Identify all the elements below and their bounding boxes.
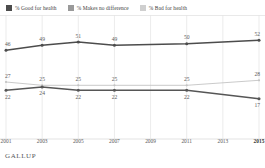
data-label: 28 [254,71,260,77]
data-label: 25 [112,76,118,82]
data-point [5,81,7,83]
legend-label-nodifference: % Makes no difference [77,5,129,11]
chart-svg: 464951495052272525252528222422222217 [0,15,265,140]
data-point [185,42,188,45]
data-label: 46 [5,41,11,47]
chart-legend: % Good for health % Makes no difference … [0,0,265,15]
data-label: 27 [5,73,11,79]
data-label: 22 [75,94,81,100]
legend-swatch-good [6,5,12,11]
data-point [5,49,8,52]
data-point [113,44,116,47]
legend-swatch-nodifference [68,5,74,11]
plot-area: 464951495052272525252528222422222217 [0,15,265,140]
gallup-brand: GALLUP [5,152,36,160]
x-tick-2015: 2015 [254,138,265,144]
data-label: 17 [254,102,260,108]
data-point [77,41,80,44]
data-label: 52 [254,31,260,37]
data-point [258,97,261,100]
legend-label-good: % Good for health [15,5,57,11]
data-point [41,86,44,89]
legend-swatch-bad [140,5,146,11]
legend-label-bad: % Bad for health [149,5,187,11]
data-point [113,89,116,92]
data-point [41,44,44,47]
data-point [113,84,115,86]
data-point [186,84,188,86]
series-2: 222422222217 [5,86,261,109]
legend-item-good: % Good for health [6,5,57,11]
legend-item-bad: % Bad for health [140,5,187,11]
series-0: 464951495052 [5,31,261,52]
x-tick-2003: 2003 [37,138,48,144]
chart-container: % Good for health % Makes no difference … [0,0,265,168]
data-label: 24 [39,90,45,96]
data-label: 22 [5,94,11,100]
data-point [258,39,261,42]
data-label: 51 [75,33,81,39]
x-tick-2009: 2009 [145,138,156,144]
data-label: 25 [39,76,45,82]
data-label: 22 [112,94,118,100]
x-tick-2013: 2013 [217,138,228,144]
data-point [258,79,260,81]
data-label: 25 [184,76,190,82]
data-label: 50 [184,34,190,40]
x-tick-2005: 2005 [73,138,84,144]
data-point [5,89,8,92]
data-label: 49 [112,36,118,42]
data-point [77,89,80,92]
legend-item-nodifference: % Makes no difference [68,5,129,11]
x-tick-2007: 2007 [109,138,120,144]
x-axis: 20012003200520072009201120132015 [0,138,265,150]
data-point [77,84,79,86]
x-tick-2001: 2001 [1,138,12,144]
data-label: 22 [184,94,190,100]
data-label: 49 [39,36,45,42]
data-point [185,89,188,92]
data-label: 25 [75,76,81,82]
series-1: 272525252528 [5,71,260,86]
x-tick-2011: 2011 [181,138,192,144]
